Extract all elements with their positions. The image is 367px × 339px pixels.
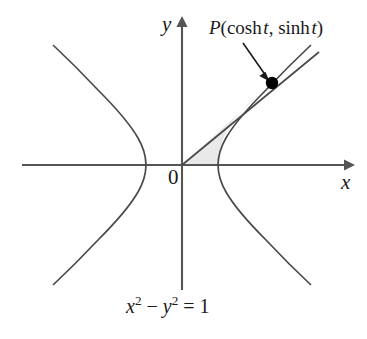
- point-P-name: P: [209, 17, 221, 38]
- annotation-arrow-line: [243, 43, 266, 76]
- y-axis-label: y: [162, 14, 171, 35]
- equation-y-term: y: [163, 295, 172, 317]
- hyperbola-figure: y x 0 P(cosh t, sinh t) x2 − y2 = 1: [0, 0, 367, 339]
- cosh-function: cosh: [227, 17, 262, 38]
- point-P-label: P(cosh t, sinh t): [209, 18, 323, 37]
- coord-comma: ,: [269, 17, 274, 38]
- equation-y-exponent: 2: [172, 293, 179, 308]
- origin-label: 0: [168, 167, 179, 188]
- equation-minus-sign: −: [146, 295, 157, 317]
- y-axis-arrowhead: [176, 16, 187, 27]
- ray-origin-to-point: [182, 52, 319, 165]
- sinh-function: sinh: [278, 17, 310, 38]
- equation-equals-one: = 1: [183, 295, 209, 317]
- equation-x-exponent: 2: [135, 293, 142, 308]
- hyperbola-canvas: [0, 0, 367, 339]
- equation-caption: x2 − y2 = 1: [126, 296, 210, 316]
- equation-x-term: x: [126, 295, 135, 317]
- point-P-marker: [266, 77, 278, 89]
- point-close-paren: ): [317, 17, 323, 38]
- x-axis-arrowhead: [344, 159, 355, 170]
- shaded-sector: [182, 83, 272, 165]
- x-axis-label: x: [341, 172, 350, 193]
